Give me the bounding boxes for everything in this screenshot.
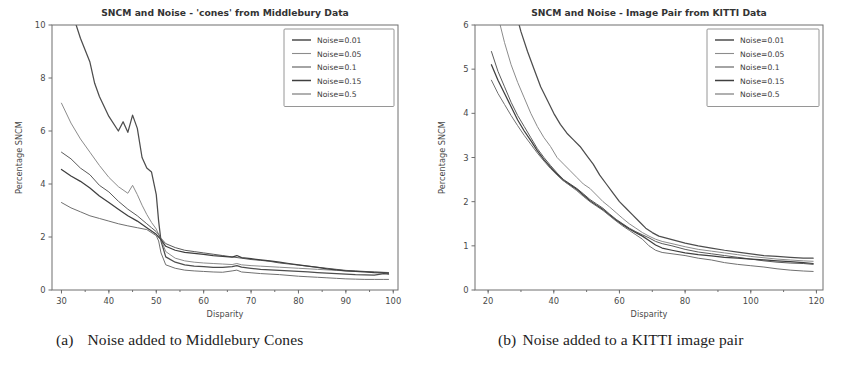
caption-a: (a)Noise added to Middlebury Cones (56, 331, 303, 349)
x-tick-label: 80 (680, 296, 691, 306)
y-tick-label: 1 (463, 241, 468, 251)
x-tick-label: 100 (385, 296, 401, 306)
legend-label: Noise=0.1 (317, 63, 357, 72)
x-tick-label: 40 (104, 296, 115, 306)
caption-b-label: (b) (498, 331, 516, 348)
y-tick-label: 4 (40, 179, 45, 189)
legend-label: Noise=0.5 (317, 90, 357, 99)
legend-label: Noise=0.15 (317, 77, 362, 86)
legend-label: Noise=0.05 (740, 50, 785, 59)
y-tick-label: 10 (35, 20, 46, 30)
x-axis-label: Disparity (631, 309, 668, 319)
x-tick-label: 20 (483, 296, 494, 306)
legend-label: Noise=0.5 (740, 90, 780, 99)
y-tick-label: 2 (40, 232, 45, 242)
y-tick-label: 0 (40, 285, 45, 295)
panel-a-middlebury: SNCM and Noise - 'cones' from Middlebury… (0, 0, 423, 325)
caption-b: (b)Noise added to a KITTI image pair (498, 331, 743, 349)
x-tick-label: 60 (198, 296, 209, 306)
chart-title: SNCM and Noise - Image Pair from KITTI D… (531, 7, 767, 18)
legend-label: Noise=0.1 (740, 63, 780, 72)
figure-container: SNCM and Noise - 'cones' from Middlebury… (0, 0, 847, 371)
x-tick-label: 60 (614, 296, 625, 306)
series-line-noise-0-1 (61, 152, 388, 273)
x-tick-label: 120 (808, 296, 824, 306)
x-tick-label: 100 (743, 296, 759, 306)
chart-b-sncm-kitti: SNCM and Noise - Image Pair from KITTI D… (423, 0, 847, 325)
legend-label: Noise=0.05 (317, 50, 362, 59)
y-tick-label: 0 (463, 285, 468, 295)
y-tick-label: 5 (463, 64, 468, 74)
x-tick-label: 70 (246, 296, 257, 306)
chart-a-sncm-middlebury: SNCM and Noise - 'cones' from Middlebury… (0, 0, 423, 325)
legend-label: Noise=0.01 (317, 36, 362, 45)
panels-row: SNCM and Noise - 'cones' from Middlebury… (0, 0, 847, 325)
y-tick-label: 6 (40, 126, 45, 136)
y-axis-label: Percentage SNCM (437, 121, 447, 194)
caption-a-label: (a) (56, 331, 74, 348)
x-tick-label: 80 (293, 296, 304, 306)
chart-title: SNCM and Noise - 'cones' from Middlebury… (101, 7, 348, 18)
y-tick-label: 6 (463, 20, 468, 30)
captions-row: (a)Noise added to Middlebury Cones (b)No… (0, 325, 847, 371)
legend-label: Noise=0.01 (740, 36, 785, 45)
panel-b-kitti: SNCM and Noise - Image Pair from KITTI D… (423, 0, 847, 325)
y-tick-label: 2 (463, 197, 468, 207)
x-tick-label: 30 (56, 296, 67, 306)
y-tick-label: 3 (463, 153, 468, 163)
x-tick-label: 50 (151, 296, 162, 306)
series-line-noise-0-05 (61, 103, 388, 272)
caption-a-text: Noise added to Middlebury Cones (88, 331, 304, 348)
y-axis-label: Percentage SNCM (14, 121, 24, 194)
y-tick-label: 4 (463, 108, 468, 118)
y-tick-label: 8 (40, 73, 45, 83)
x-tick-label: 90 (341, 296, 352, 306)
x-tick-label: 40 (548, 296, 559, 306)
caption-b-text: Noise added to a KITTI image pair (522, 331, 743, 348)
x-axis-label: Disparity (207, 309, 244, 319)
legend-label: Noise=0.15 (740, 77, 785, 86)
